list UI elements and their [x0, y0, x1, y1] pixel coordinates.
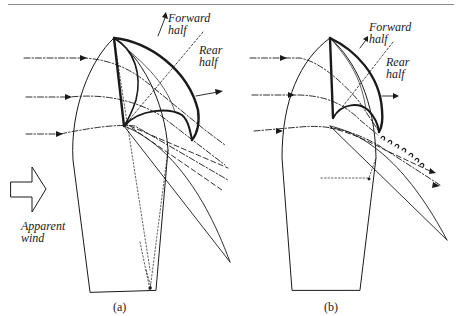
sail-a-inner-curve — [114, 38, 138, 126]
force-arrow-forward-a — [158, 18, 165, 36]
sail-a-luff — [114, 38, 124, 126]
label-rear-half-b: Rearhalf — [386, 56, 409, 80]
mast-step-b — [368, 178, 371, 181]
airflow-b-top — [250, 58, 378, 130]
airflow-a-mid — [26, 96, 225, 165]
label-forward-half-a: Forwardhalf — [168, 12, 210, 36]
sail-airflow-diagram — [0, 0, 458, 316]
sail-b-luff — [330, 38, 333, 118]
label-rear-half-a: Rearhalf — [199, 44, 222, 68]
rear-half-divider-a — [124, 32, 203, 126]
sail-a-leech — [114, 38, 199, 140]
hull-b — [282, 38, 376, 290]
apparent-wind-arrow-icon — [11, 167, 46, 212]
turbulent-wake-b — [381, 137, 424, 167]
force-arrow-rear-a — [196, 92, 218, 96]
boom-b — [330, 126, 447, 240]
caption-a: (a) — [113, 300, 126, 315]
panel-b-drawing — [250, 36, 447, 290]
caption-b: (b) — [324, 300, 338, 315]
label-forward-half-b: Forwardhalf — [369, 21, 411, 45]
mast-step-a — [148, 286, 151, 289]
force-arrow-forward-b — [360, 40, 366, 48]
label-apparent-wind: Apparentwind — [21, 220, 65, 244]
sail-a-foot — [124, 111, 192, 140]
hull-a — [73, 38, 168, 292]
